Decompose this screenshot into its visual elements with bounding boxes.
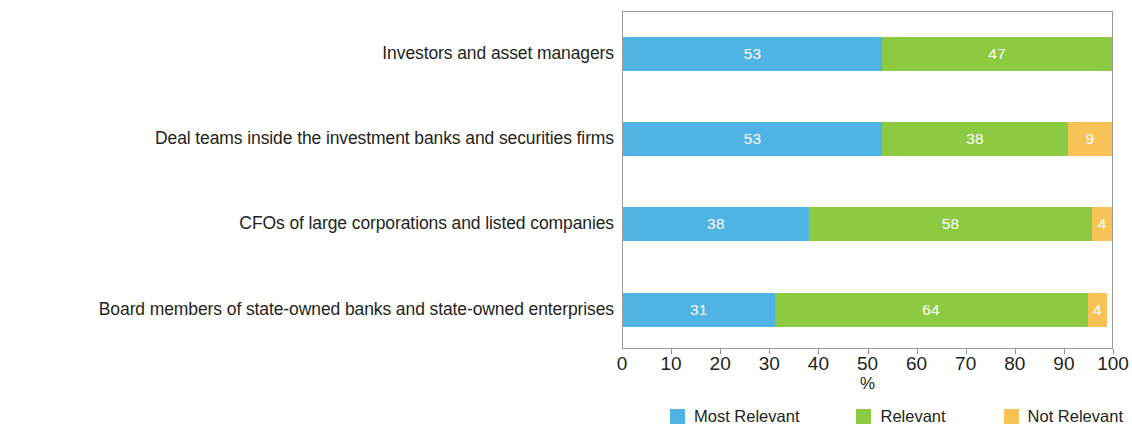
- bar-value-label: 64: [922, 302, 940, 318]
- bar-value-label: 38: [707, 216, 725, 232]
- x-axis-title: %: [838, 374, 898, 394]
- bar-value-label: 38: [966, 131, 984, 147]
- stacked-bar-chart: Investors and asset managersDeal teams i…: [0, 0, 1132, 429]
- bar-segment: 4: [1092, 207, 1112, 241]
- bar-value-label: 58: [942, 216, 960, 232]
- bar-segment: 9: [1068, 122, 1112, 156]
- bar-value-label: 53: [744, 131, 762, 147]
- bar-segment: 64: [775, 293, 1088, 327]
- category-label: Investors and asset managers: [0, 43, 614, 63]
- legend-label: Most Relevant: [694, 407, 799, 425]
- legend-swatch-icon: [1004, 409, 1019, 424]
- category-label: Deal teams inside the investment banks a…: [0, 128, 614, 148]
- bar-row: 5347: [623, 37, 1112, 71]
- chart-legend: Most RelevantRelevantNot Relevant: [670, 406, 1123, 426]
- bar-segment: 53: [623, 122, 882, 156]
- legend-swatch-icon: [670, 409, 685, 424]
- legend-label: Relevant: [880, 407, 945, 425]
- x-axis-tick-label: 100: [1083, 353, 1132, 375]
- plot-area: 5347533893858431644: [622, 11, 1113, 349]
- category-axis-labels: Investors and asset managersDeal teams i…: [0, 11, 614, 349]
- category-label: Board members of state-owned banks and s…: [0, 299, 614, 319]
- category-label: CFOs of large corporations and listed co…: [0, 213, 614, 233]
- bar-segment: 38: [882, 122, 1068, 156]
- bar-value-label: 9: [1086, 131, 1095, 147]
- bars-container: 5347533893858431644: [623, 12, 1112, 348]
- legend-item[interactable]: Not Relevant: [1004, 407, 1123, 425]
- bar-value-label: 4: [1098, 216, 1107, 232]
- bar-row: 31644: [623, 293, 1112, 327]
- legend-item[interactable]: Relevant: [856, 407, 945, 425]
- bar-value-label: 4: [1093, 302, 1102, 318]
- legend-swatch-icon: [856, 409, 871, 424]
- bar-row: 53389: [623, 122, 1112, 156]
- bar-segment: 4: [1088, 293, 1108, 327]
- bar-segment: 58: [809, 207, 1093, 241]
- legend-label: Not Relevant: [1028, 407, 1123, 425]
- bar-value-label: 47: [988, 46, 1006, 62]
- legend-item[interactable]: Most Relevant: [670, 407, 799, 425]
- bar-segment: 31: [623, 293, 775, 327]
- bar-segment: 47: [882, 37, 1112, 71]
- bar-segment: 38: [623, 207, 809, 241]
- bar-row: 38584: [623, 207, 1112, 241]
- bar-segment: 53: [623, 37, 882, 71]
- bar-value-label: 53: [744, 46, 762, 62]
- bar-value-label: 31: [690, 302, 708, 318]
